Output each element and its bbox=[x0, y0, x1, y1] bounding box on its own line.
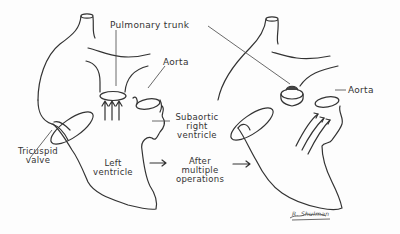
flow-arrows-aortic bbox=[296, 113, 330, 154]
label-aorta-right: Aorta bbox=[348, 86, 374, 95]
label-pulmonary-trunk: Pulmonary trunk bbox=[110, 21, 189, 30]
label-left-ventricle: Left ventricle bbox=[88, 159, 138, 177]
tricuspid-line-2: valve bbox=[14, 156, 62, 165]
subaortic-line-3: ventricle bbox=[173, 131, 221, 140]
label-tricuspid-valve: Tricuspid valve bbox=[14, 147, 62, 165]
arrow-right bbox=[233, 161, 250, 167]
label-after-multiple-operations: After multiple operations bbox=[168, 157, 232, 184]
left-ventricle-line-2: ventricle bbox=[88, 168, 138, 177]
heart-diagram: Pulmonary trunk Aorta Aorta Subaortic ri… bbox=[0, 0, 400, 234]
label-aorta-left: Aorta bbox=[163, 58, 189, 67]
after-line-3: operations bbox=[168, 175, 232, 184]
heart-before bbox=[30, 14, 170, 209]
label-subaortic-right-ventricle: Subaortic right ventricle bbox=[173, 113, 221, 140]
arrow-left bbox=[150, 160, 166, 166]
signature: R. Shulman bbox=[292, 209, 329, 218]
flow-arrows-pulmonary bbox=[102, 101, 122, 120]
